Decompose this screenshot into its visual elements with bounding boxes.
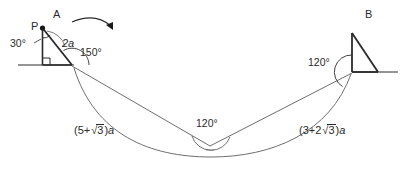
- triangle-right-hypotenuse: [352, 33, 378, 72]
- angle-label-150: 150°: [80, 47, 102, 58]
- angle-label-120-center: 120°: [196, 118, 218, 129]
- point-label-a: A: [53, 9, 60, 20]
- length-label-chord-left: (5+√3)a: [74, 124, 114, 136]
- length-label-chord-right: (3+2√3)a: [299, 124, 345, 136]
- angle-arc-120-right: [334, 55, 352, 87]
- point-p-marker: [40, 25, 45, 30]
- right-angle-square-icon: [43, 58, 51, 65]
- angle-label-120-right: 120°: [308, 57, 330, 68]
- chord-left-prefix: (5+: [74, 124, 90, 136]
- chord-right-prefix: (3+2: [299, 124, 321, 136]
- chord-right-unit: a: [339, 124, 345, 136]
- angle-label-30: 30°: [10, 38, 26, 49]
- geometry-figure: [0, 0, 411, 170]
- rolling-arc-path: [74, 68, 351, 157]
- angle-30-leader-line: [34, 39, 41, 43]
- chord-left-unit: a: [108, 124, 114, 136]
- sqrt-icon-right: √3: [321, 124, 335, 136]
- chord-right-radicand: 3: [327, 124, 335, 136]
- diagram-canvas: P A B 30° 150° 120° 120° 2a (5+√3)a (3+2…: [0, 0, 411, 170]
- rotation-arrow-curve: [72, 18, 111, 26]
- length-label-2a: 2a: [62, 38, 74, 49]
- point-label-b: B: [365, 9, 372, 20]
- point-label-p: P: [31, 21, 38, 32]
- sqrt-icon-left: √3: [90, 124, 104, 136]
- chord-left-radicand: 3: [96, 124, 104, 136]
